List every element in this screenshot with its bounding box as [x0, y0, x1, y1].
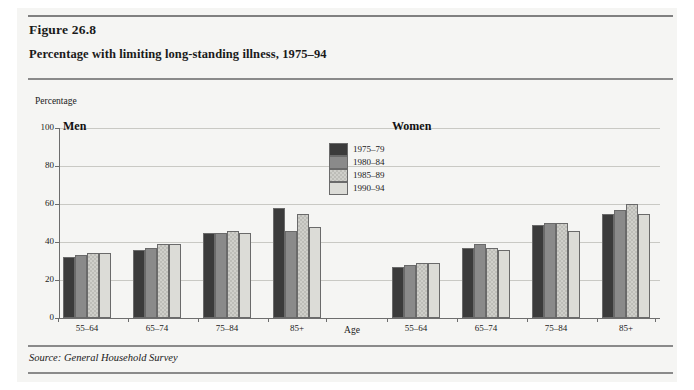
x-axis-tick-mark — [655, 318, 656, 322]
bar — [215, 233, 227, 319]
bar — [428, 263, 440, 318]
legend-label: 1990–94 — [353, 182, 385, 195]
panel-title-women: Women — [392, 119, 431, 134]
bar — [227, 231, 239, 318]
y-axis-line — [59, 128, 60, 319]
legend-label: 1975–79 — [353, 143, 385, 156]
legend-label: 1985–89 — [353, 169, 385, 182]
legend-swatch-icon — [329, 182, 348, 195]
legend-swatch-icon — [329, 143, 348, 156]
y-axis-tick-label: 0 — [28, 312, 54, 322]
x-axis-caption: Age — [332, 325, 372, 335]
bar — [474, 244, 486, 318]
x-axis-tick-mark — [58, 318, 59, 322]
x-axis-tick-mark — [128, 318, 129, 322]
x-axis-group-label: 85+ — [596, 323, 656, 333]
bar — [614, 210, 626, 318]
bar — [602, 214, 614, 319]
figure-number: Figure 26.8 — [29, 22, 96, 38]
x-axis-group-label: 55–64 — [386, 323, 446, 333]
x-axis-tick-mark — [457, 318, 458, 322]
y-axis-tick-label: 80 — [28, 160, 54, 170]
x-axis-group-label: 75–84 — [197, 323, 257, 333]
bar — [638, 214, 650, 319]
gridline — [60, 128, 660, 129]
bar — [285, 231, 297, 318]
bar — [75, 255, 87, 318]
y-axis-tick-label: 40 — [28, 236, 54, 246]
x-axis-group-label: 65–74 — [456, 323, 516, 333]
source-note: Source: General Household Survey — [29, 352, 178, 363]
bar — [145, 248, 157, 318]
bar — [568, 231, 580, 318]
x-axis-group-label: 55–64 — [57, 323, 117, 333]
bar — [532, 225, 544, 318]
bar — [556, 223, 568, 318]
divider-top — [28, 15, 673, 17]
y-axis-caption: Percentage — [35, 96, 77, 106]
bar — [157, 244, 169, 318]
bar — [239, 233, 251, 319]
bar — [99, 253, 111, 318]
bar — [404, 265, 416, 318]
bar — [416, 263, 428, 318]
legend-swatch-icon — [329, 169, 348, 182]
bar — [392, 267, 404, 318]
x-axis-tick-mark — [597, 318, 598, 322]
x-axis-tick-mark — [387, 318, 388, 322]
x-axis-group-label: 75–84 — [526, 323, 586, 333]
x-axis-tick-mark — [198, 318, 199, 322]
bar — [63, 257, 75, 318]
bar — [169, 244, 181, 318]
divider-under-title — [28, 78, 673, 80]
gridline — [60, 204, 660, 205]
x-axis-tick-mark — [326, 318, 327, 322]
bar — [297, 214, 309, 319]
y-axis-tick-label: 20 — [28, 274, 54, 284]
y-axis-tick-label: 100 — [28, 122, 54, 132]
bar — [498, 250, 510, 318]
bar — [87, 253, 99, 318]
x-axis-tick-mark — [268, 318, 269, 322]
bar — [133, 250, 145, 318]
x-axis-tick-mark — [527, 318, 528, 322]
y-axis-tick-label: 60 — [28, 198, 54, 208]
legend-swatch-icon — [329, 156, 348, 169]
legend-label: 1980–84 — [353, 156, 385, 169]
bar — [626, 204, 638, 318]
bar — [544, 223, 556, 318]
bar — [486, 248, 498, 318]
figure-title: Percentage with limiting long-standing i… — [29, 47, 327, 62]
bar — [273, 208, 285, 318]
figure-container: Figure 26.8 Percentage with limiting lon… — [0, 0, 694, 390]
x-axis-line — [59, 318, 660, 319]
divider-above-source — [28, 345, 673, 347]
x-axis-group-label: 85+ — [267, 323, 327, 333]
panel-title-men: Men — [63, 119, 86, 134]
bar — [203, 233, 215, 319]
bar — [309, 227, 321, 318]
bar — [462, 248, 474, 318]
x-axis-group-label: 65–74 — [127, 323, 187, 333]
divider-bottom — [28, 372, 673, 374]
